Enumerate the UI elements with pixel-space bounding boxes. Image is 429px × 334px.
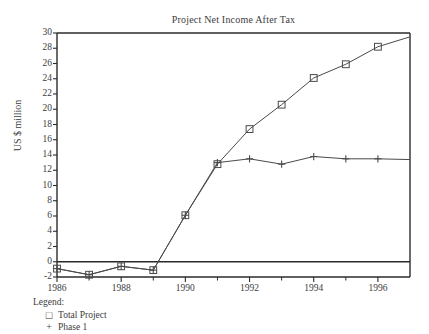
- legend-items: □Total Project+Phase 1: [33, 309, 107, 334]
- x-tick-label: 1986: [35, 283, 79, 293]
- x-axis-tick-labels: 198619881990199219941996: [0, 0, 429, 334]
- legend-title: Legend:: [33, 296, 107, 309]
- x-tick-label: 1992: [228, 283, 272, 293]
- legend-item-label: Phase 1: [58, 321, 87, 334]
- legend-item-total-project[interactable]: □Total Project: [33, 309, 107, 322]
- chart-legend: Legend: □Total Project+Phase 1: [33, 296, 107, 334]
- legend-item-label: Total Project: [58, 309, 107, 322]
- square-marker-icon: □: [43, 309, 55, 321]
- x-tick-label: 1988: [99, 283, 143, 293]
- x-tick-label: 1996: [356, 283, 400, 293]
- x-tick-label: 1994: [292, 283, 336, 293]
- plus-marker-icon: +: [43, 321, 55, 333]
- legend-item-phase-1[interactable]: +Phase 1: [33, 321, 107, 334]
- x-tick-label: 1990: [163, 283, 207, 293]
- chart-figure: Project Net Income After Tax US $ millio…: [0, 0, 429, 334]
